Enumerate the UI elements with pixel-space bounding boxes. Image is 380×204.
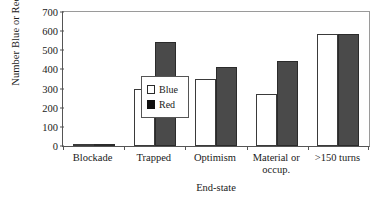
x-tick-label: Blockade [62,152,123,164]
bar-red [277,61,298,146]
legend-entry-blue: Blue [147,82,183,97]
bar-blue [317,34,338,146]
plot-area: 7006005004003002001000 Blue Red [62,11,370,147]
chart-legend: Blue Red [141,76,189,118]
x-tick-label: Optimism [184,152,245,164]
x-tick-mark [308,146,309,150]
bar-blue [256,94,277,146]
x-tick-mark [185,146,186,150]
bar-chart-figure: Number Blue or Red 700600500400300200100… [0,0,380,204]
x-tick-label: Trapped [123,152,184,164]
y-axis-title: Number Blue or Red [7,0,25,101]
bar-blue [73,144,94,146]
bar-red [94,144,115,146]
legend-entry-red: Red [147,97,183,112]
bar-group [185,12,246,146]
bar-blue [195,79,216,146]
x-axis-title: End-state [62,182,370,193]
x-tick-mark [247,146,248,150]
open-square-swatch-icon [147,85,155,94]
legend-label-red: Red [159,99,175,110]
filled-square-swatch-icon [147,100,155,109]
bar-red [338,34,359,146]
x-tick-mark [368,146,369,150]
x-tick-mark [124,146,125,150]
x-tick-label-line2: occup. [246,164,307,176]
bar-group [247,12,308,146]
legend-label-blue: Blue [159,84,178,95]
bar-group [63,12,124,146]
bar-group [308,12,369,146]
x-tick-label: >150 turns [307,152,368,164]
x-tick-label: Material oroccup. [246,152,307,176]
x-tick-mark [63,146,64,150]
bar-red [216,67,237,146]
